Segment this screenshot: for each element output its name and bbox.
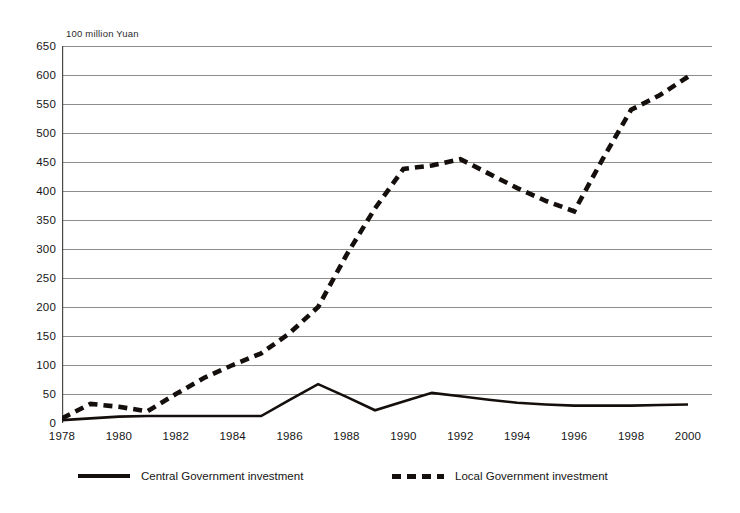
y-axis-tick-label: 500 [36,127,56,139]
y-axis-unit-label: 100 million Yuan [66,28,139,39]
series-line-1 [62,384,688,420]
x-axis-tick-label: 1984 [220,430,246,442]
y-axis-tick-label: 200 [36,301,56,313]
legend-label-central: Central Government investment [141,470,303,482]
y-axis-tick-label: 450 [36,156,56,168]
x-axis-tick-label: 1982 [163,430,189,442]
x-axis-tick-label: 1990 [390,430,416,442]
y-axis-tick-label: 250 [36,272,56,284]
x-axis-tick-label: 2000 [675,430,701,442]
x-axis-tick-label: 1988 [333,430,359,442]
legend-item-local-government: Local Government investment [392,470,608,482]
y-axis-tick-label: 100 [36,359,56,371]
x-axis-tick-label: 1992 [447,430,473,442]
y-axis-tick-label: 550 [36,98,56,110]
dashed-line-swatch-icon [392,474,444,479]
chart-figure: 100 million Yuan 05010015020025030035040… [0,0,740,513]
x-axis-tick-label: 1998 [618,430,644,442]
plot-svg [62,46,712,423]
x-axis-tick-label: 1994 [504,430,530,442]
legend-label-local: Local Government investment [455,470,608,482]
gridlines [62,47,712,424]
x-axis-tick-label: 1980 [106,430,132,442]
y-axis-tick-label: 350 [36,214,56,226]
x-axis-tick-label: 1986 [276,430,302,442]
y-axis-tick-label: 600 [36,69,56,81]
y-axis-tick-label: 650 [36,40,56,52]
y-axis-tick-label: 400 [36,185,56,197]
y-axis-tick-label: 0 [49,417,56,429]
x-axis-tick-labels: 1978198019821984198619881990199219941996… [62,430,712,450]
plot-area [62,46,712,423]
series-line-2 [62,77,688,419]
legend-item-central-government: Central Government investment [78,470,303,482]
y-axis-tick-label: 150 [36,330,56,342]
y-axis-tick-label: 300 [36,243,56,255]
y-axis-tick-label: 50 [43,388,56,400]
data-series [62,77,688,420]
x-axis-tick-label: 1978 [49,430,75,442]
x-axis-tick-label: 1996 [561,430,587,442]
solid-line-swatch-icon [78,474,130,478]
y-axis-tick-labels: 050100150200250300350400450500550600650 [0,46,56,423]
chart-legend: Central Government investment Local Gove… [62,468,722,496]
